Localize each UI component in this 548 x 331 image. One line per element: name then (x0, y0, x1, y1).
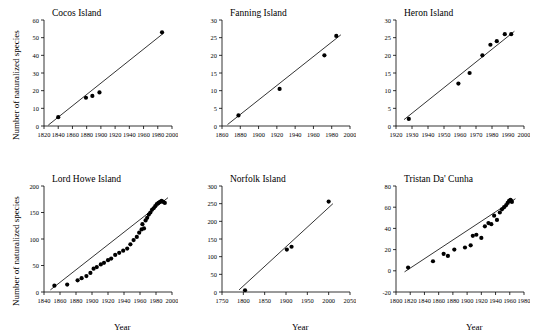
x-tick-label: 1750 (216, 297, 229, 304)
y-tick-label: 10 (211, 87, 217, 94)
x-axis-label: Year (292, 322, 309, 331)
y-tick-label: 50 (211, 271, 217, 278)
y-tick-label: 250 (207, 200, 217, 207)
x-tick-label: 1960 (137, 131, 150, 138)
data-point (76, 278, 80, 282)
data-point (84, 274, 88, 278)
x-tick-label: 1880 (234, 131, 247, 138)
data-point (109, 257, 113, 261)
data-point (406, 266, 410, 270)
data-point (468, 71, 472, 75)
panel-fanning-island: Fanning Island 0510152025301860188019001… (196, 6, 356, 152)
data-point (509, 32, 513, 36)
y-tick-label: 150 (207, 236, 217, 243)
data-point (469, 243, 473, 247)
x-tick-label: 1820 (38, 131, 51, 138)
y-tick-label: 80 (385, 183, 391, 190)
x-tick-label: 1960 (307, 131, 320, 138)
x-tick-label: 1940 (123, 131, 136, 138)
y-tick-label: 0 (36, 123, 39, 130)
plot-area: 0510152025301860188019001920194019601980… (196, 6, 356, 152)
trend-line (48, 33, 163, 125)
y-tick-label: 25 (385, 34, 391, 41)
data-point (334, 34, 338, 38)
x-tick-label: 1800 (237, 297, 250, 304)
x-axis-label: Year (466, 322, 483, 331)
data-point (160, 30, 164, 34)
x-tick-label: 1860 (432, 297, 445, 304)
panel-lord-howe-island: Lord Howe Island Year 050100150200184018… (18, 172, 178, 318)
x-tick-label: 1940 (422, 131, 435, 138)
y-tick-label: 20 (211, 52, 217, 59)
x-tick-label: 1860 (216, 131, 229, 138)
data-point (452, 248, 456, 252)
x-tick-label: 1970 (470, 131, 483, 138)
y-tick-label: 0 (214, 123, 217, 130)
x-tick-label: 1940 (289, 131, 302, 138)
y-tick-label: 50 (33, 34, 39, 41)
y-tick-label: 10 (385, 87, 391, 94)
x-tick-label: 2050 (344, 297, 356, 304)
data-point (113, 253, 117, 257)
plot-area: 0501001502002503001750180018501900195020… (196, 172, 356, 318)
panel-title: Lord Howe Island (52, 174, 121, 184)
data-point (80, 276, 84, 280)
panel-title: Tristan Da' Cunha (404, 174, 473, 184)
x-tick-label: 1980 (325, 131, 338, 138)
data-point (140, 222, 144, 226)
plot-area: 0501001502001840186018801900192019401960… (18, 172, 178, 318)
y-tick-label: 30 (385, 17, 391, 24)
data-point (510, 200, 514, 204)
data-point (446, 254, 450, 258)
x-tick-label: 1950 (301, 297, 314, 304)
data-point (407, 117, 411, 121)
x-tick-label: 1980 (518, 297, 530, 304)
x-tick-label: 1980 (151, 131, 164, 138)
y-tick-label: 200 (29, 183, 39, 190)
x-tick-label: 1840 (38, 297, 51, 304)
x-tick-label: 1960 (454, 131, 467, 138)
x-tick-label: 1840 (52, 131, 65, 138)
data-point (480, 53, 484, 57)
y-tick-label: 0 (388, 123, 391, 130)
y-tick-label: 40 (385, 225, 391, 232)
y-tick-label: 20 (385, 246, 391, 253)
x-tick-label: 1840 (418, 297, 431, 304)
x-tick-label: 1990 (502, 131, 515, 138)
x-tick-label: 1920 (102, 297, 115, 304)
data-point (463, 245, 467, 249)
data-point (456, 82, 460, 86)
y-tick-label: 15 (211, 70, 217, 77)
data-point (117, 251, 121, 255)
data-point (52, 284, 56, 288)
x-tick-label: 2000 (166, 297, 178, 304)
y-tick-label: 60 (385, 204, 391, 211)
data-point (90, 94, 94, 98)
y-tick-label: 30 (33, 70, 39, 77)
plot-area: 0102030405060182018401860188019001920194… (18, 6, 178, 152)
y-tick-label: 0 (36, 289, 39, 296)
x-tick-label: 1980 (486, 131, 499, 138)
data-point (135, 235, 139, 239)
y-tick-label: 10 (33, 105, 39, 112)
data-point (285, 248, 289, 252)
x-tick-label: 1940 (489, 297, 502, 304)
data-point (495, 39, 499, 43)
data-point (483, 224, 487, 228)
data-point (327, 199, 331, 203)
y-tick-label: 60 (33, 17, 39, 24)
y-tick-label: 0 (388, 267, 391, 274)
panel-cocos-island: Cocos Island 010203040506018201840186018… (18, 6, 178, 152)
x-tick-label: 1920 (270, 131, 283, 138)
x-tick-label: 2000 (322, 297, 335, 304)
x-tick-label: 2000 (344, 131, 356, 138)
trend-line (227, 35, 340, 125)
x-tick-label: 1900 (86, 297, 99, 304)
y-tick-label: 50 (33, 262, 39, 269)
data-point (125, 246, 129, 250)
y-tick-label: 100 (207, 253, 217, 260)
y-tick-label: 30 (211, 17, 217, 24)
data-point (442, 252, 446, 256)
data-point (431, 259, 435, 263)
plot-area: -200204060801800182018401860188019001920… (370, 172, 530, 318)
